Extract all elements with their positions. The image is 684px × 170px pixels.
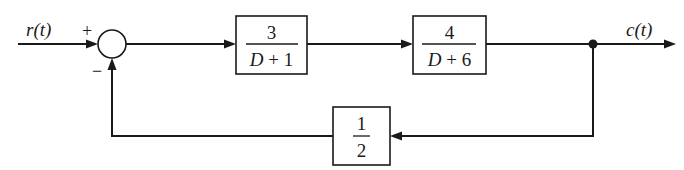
block-2-denominator: D + 6 (427, 49, 471, 70)
feedback-return-arrow-icon (108, 58, 117, 70)
output-label: c(t) (626, 19, 652, 41)
forward-arrow-1-icon (224, 40, 236, 49)
forward-arrow-2-icon (401, 40, 413, 49)
block-1-numerator: 3 (267, 22, 277, 43)
forward-block-2: 4 D + 6 (413, 16, 486, 74)
feedback-denominator: 2 (357, 140, 367, 161)
block-2-numerator: 4 (445, 22, 455, 43)
feedback-arrow-icon (390, 132, 402, 141)
feedback-path: 1 2 (108, 44, 594, 165)
input-label: r(t) (26, 19, 51, 41)
minus-sign: − (92, 61, 102, 81)
summing-circle (98, 30, 126, 58)
block-1-denominator: D + 1 (249, 49, 293, 70)
output-arrow-icon (664, 40, 676, 49)
feedback-line-left (112, 64, 333, 136)
feedback-numerator: 1 (357, 113, 367, 134)
summing-junction: + − (82, 21, 126, 81)
plus-sign: + (82, 21, 92, 41)
block-diagram: r(t) + − 3 D + 1 4 D + 6 c(t) (0, 0, 684, 170)
forward-block-1: 3 D + 1 (236, 16, 307, 74)
